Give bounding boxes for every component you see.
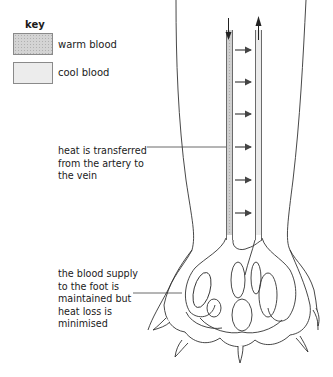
leg-foot-diagram [0,0,333,377]
leg-outline [148,0,318,330]
vein-vessel [256,30,262,240]
claws [153,308,319,363]
heat-transfer-arrows [235,50,251,213]
foot-vessel-network [164,238,310,347]
artery-vessel [227,30,233,240]
